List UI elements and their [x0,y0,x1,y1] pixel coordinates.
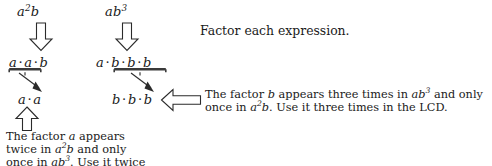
down-block-arrow-a [28,22,54,52]
callout-b-line1-mid: appears three times in [275,88,412,101]
callout-a-line3-post: . Use it twice [70,156,145,166]
dot-separator: · [136,92,143,107]
expression-a2b: a2b [17,4,39,19]
callout-a-text: The factor a appears twice in a2b and on… [6,130,145,166]
callout-a-line1-pre: The factor [6,130,69,143]
result-b-factor-3: b [144,92,153,107]
callout-b-line-2: once in a2b. Use it three times in the L… [205,101,483,114]
factor-a-1: a [96,55,104,70]
callout-b-line-1: The factor b appears three times in ab3 … [205,88,483,101]
connector-arrow-a [18,72,52,94]
left-block-arrow [160,88,202,112]
result-a-factor-1: a [18,92,26,107]
expression-a2b-tail: b [31,4,40,19]
result-a: a·a [18,92,41,107]
result-b-factor-1: b [112,92,121,107]
callout-a-line-1: The factor a appears [6,130,145,143]
callout-b-line1-expr-base: ab [412,88,426,101]
dot-separator: · [121,92,128,107]
callout-a-line-3: once in ab3. Use it twice [6,156,145,166]
callout-a-line-2: twice in a2b and only [6,143,145,156]
expression-a2b-base: a [17,4,25,19]
callout-b-line2-expr-base: a [250,101,257,114]
expression-ab3-base: ab [105,4,121,19]
callout-a-line3-pre: once in [6,156,51,166]
callout-b-line2-expr-tail: b [262,101,269,114]
expression-ab3: ab3 [105,4,127,19]
callout-a-line2-post: and only [74,143,127,156]
callout-b-line2-pre: once in [205,101,250,114]
callout-b-line1-var: b [268,88,275,101]
callout-a-line3-expr-base: ab [51,156,65,166]
expression-ab3-exponent: 3 [121,3,127,13]
instruction-text: Factor each expression. [200,23,350,38]
callout-a-line1-post: appears [75,130,124,143]
callout-b-line2-post: . Use it three times in the LCD. [269,101,448,114]
down-block-arrow-b [114,22,140,52]
callout-a-line2-expr-base: a [55,143,62,156]
up-block-arrow-a [14,106,40,132]
connector-arrow-b [130,72,164,94]
factoring-diagram: a2b a·a·b a·a ab3 [0,0,492,166]
callout-a-line2-pre: twice in [6,143,55,156]
result-a-factor-2: a [33,92,41,107]
callout-b-line1-post: and only [430,88,483,101]
result-b: b·b·b [112,92,152,107]
callout-b-text: The factor b appears three times in ab3 … [205,88,483,114]
